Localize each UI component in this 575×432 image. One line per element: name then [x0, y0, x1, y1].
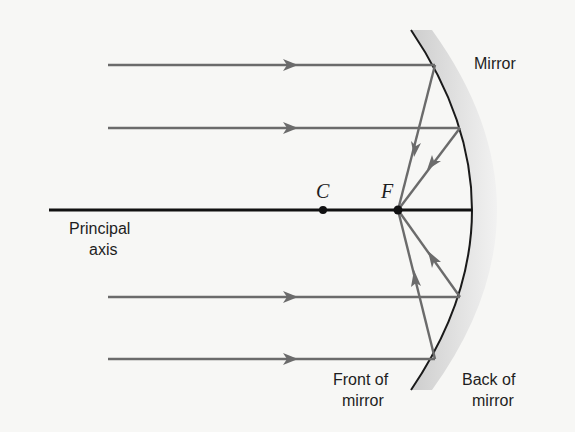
label-c: C [316, 180, 330, 202]
label-principal-axis-1: Principal [69, 220, 130, 237]
label-back-1: Back of [462, 371, 516, 388]
label-front-2: mirror [342, 392, 384, 409]
label-front-1: Front of [333, 371, 389, 388]
ray-diagram: C F Mirror Principal axis Front of mirro… [0, 0, 575, 432]
ray-4-reflected [398, 210, 435, 359]
label-principal-axis-2: axis [89, 241, 117, 258]
ray-1-reflected [398, 65, 435, 210]
focal-point [394, 206, 403, 215]
label-mirror: Mirror [474, 55, 516, 72]
center-of-curvature-point [319, 206, 327, 214]
incoming-rays [108, 59, 460, 365]
label-f: F [380, 180, 394, 202]
arrowhead-icon [428, 251, 441, 268]
label-back-2: mirror [472, 392, 514, 409]
